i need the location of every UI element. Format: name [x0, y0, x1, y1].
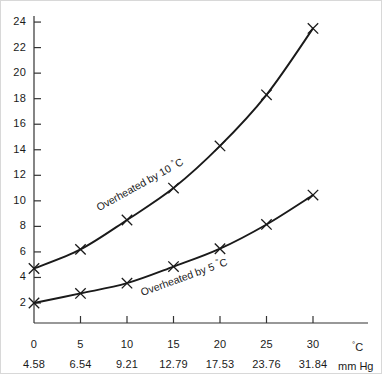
- x-tick-label: 5: [61, 338, 101, 350]
- data-point-marker: [308, 23, 318, 33]
- data-point-marker: [168, 261, 178, 271]
- y-tick-label: 14: [0, 143, 26, 155]
- vapour-pressure-label: 31.84: [285, 358, 341, 370]
- y-tick-label: 18: [0, 92, 26, 104]
- y-tick-label: 8: [0, 219, 26, 231]
- chart-figure: 24681012141618202224 051015202530 4.586.…: [0, 0, 383, 375]
- plot-area: [0, 0, 383, 375]
- data-point-marker: [261, 219, 271, 229]
- x-tick-label: 0: [14, 338, 54, 350]
- x-tick-label: 30: [293, 338, 333, 350]
- x-tick-label: 15: [154, 338, 194, 350]
- y-tick-label: 22: [0, 41, 26, 53]
- y-tick-label: 4: [0, 270, 26, 282]
- data-point-marker: [261, 90, 271, 100]
- x-tick-label: 25: [247, 338, 287, 350]
- x-axis-unit-celsius: °C: [352, 340, 363, 353]
- y-tick-label: 6: [0, 245, 26, 257]
- y-tick-label: 12: [0, 168, 26, 180]
- y-tick-label: 10: [0, 194, 26, 206]
- y-tick-label: 16: [0, 117, 26, 129]
- data-point-marker: [122, 215, 132, 225]
- data-point-marker: [215, 141, 225, 151]
- data-point-marker: [122, 278, 132, 288]
- data-point-marker: [308, 190, 318, 200]
- series-curve: [29, 23, 318, 273]
- x-tick-label: 20: [200, 338, 240, 350]
- data-point-marker: [75, 244, 85, 254]
- y-tick-label: 24: [0, 15, 26, 27]
- x-axis-unit-mmhg: mm Hg: [338, 360, 373, 372]
- data-point-marker: [215, 244, 225, 254]
- y-tick-label: 20: [0, 66, 26, 78]
- axis-lines: [34, 16, 368, 323]
- x-tick-label: 10: [107, 338, 147, 350]
- y-tick-label: 2: [0, 296, 26, 308]
- series-curve: [29, 190, 318, 308]
- data-point-marker: [168, 183, 178, 193]
